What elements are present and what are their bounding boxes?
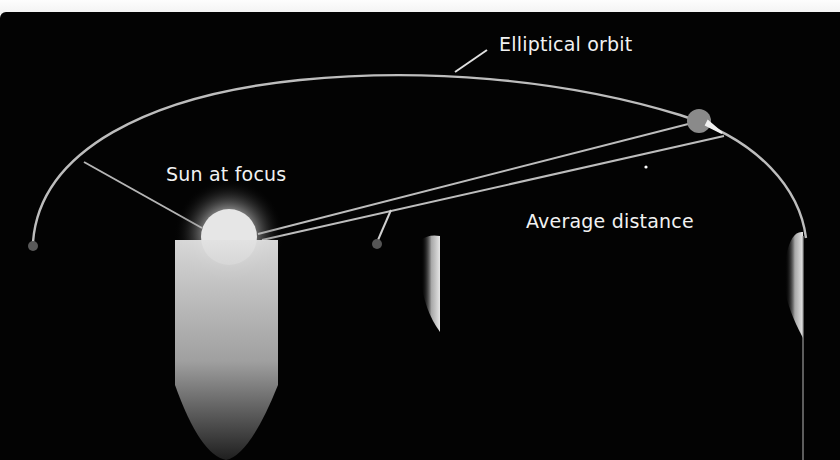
beam-right (785, 232, 803, 338)
orbit-end-nub-left (28, 241, 38, 251)
average-distance-label: Average distance (526, 210, 694, 232)
direction-arrow-icon (706, 121, 722, 133)
elliptical-orbit-label: Elliptical orbit (499, 33, 632, 55)
average-distance-nub (372, 239, 382, 249)
orbit-diagram (0, 0, 840, 460)
sun-at-focus-label: Sun at focus (166, 163, 286, 185)
orbit-label-pointer (455, 50, 487, 72)
average-distance-pointer (378, 210, 391, 240)
star-dot (644, 165, 647, 168)
beam-mid (421, 236, 440, 333)
sun-light-beam (175, 240, 278, 460)
